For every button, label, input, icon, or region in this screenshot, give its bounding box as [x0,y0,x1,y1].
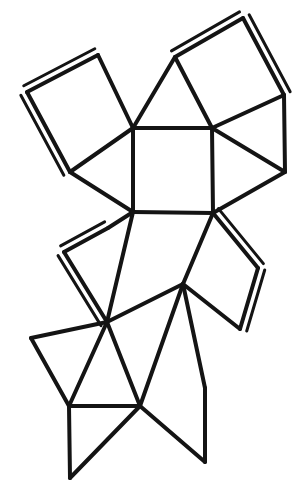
net-face-central-square [133,128,213,213]
net-edge-bottom-left-diag [69,406,70,478]
net-edge-central-square-right [212,128,213,213]
net-edge-right-triangle-outer [284,95,285,172]
figure-canvas [0,0,303,496]
net-edge-central-square-bottom [133,212,213,213]
polyhedron-net-drawing [0,0,303,496]
